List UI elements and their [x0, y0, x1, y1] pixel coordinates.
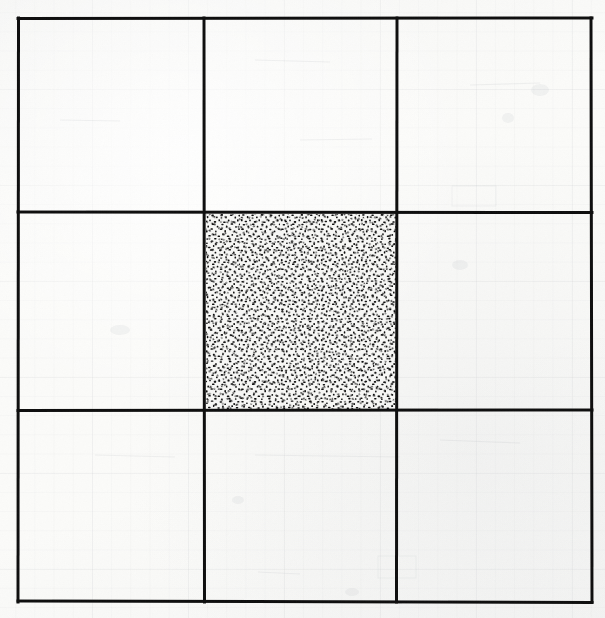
grid-rule-horizontal-1: [18, 212, 592, 213]
grid-rule-vertical-1: [204, 18, 205, 602]
grid-rule-vertical-2: [397, 18, 398, 602]
grid-border-bottom: [18, 601, 592, 603]
grid-cell-r3c1: [20, 412, 202, 600]
figure-root: A hand-ruled three-by-three grid of squa…: [0, 0, 605, 618]
grid-cell-r2c3: [399, 214, 590, 408]
grid-drawing: [0, 0, 605, 618]
grid-cell-r2c2: [206, 214, 395, 408]
grid-cell-r1c1: [20, 20, 202, 210]
grid-cell-r1c3: [399, 20, 590, 210]
grid-border-top: [18, 18, 592, 19]
grid-cell-r3c2: [206, 412, 395, 600]
grid-cell-r2c1: [20, 214, 202, 408]
grid-cell-r1c2: [206, 20, 395, 210]
grid-cell-r3c3: [399, 412, 590, 600]
grid-cell-regions: [20, 20, 590, 600]
grid-rule-horizontal-2: [18, 410, 592, 411]
grid-border-right: [591, 18, 592, 602]
grid-border-left: [18, 18, 19, 602]
